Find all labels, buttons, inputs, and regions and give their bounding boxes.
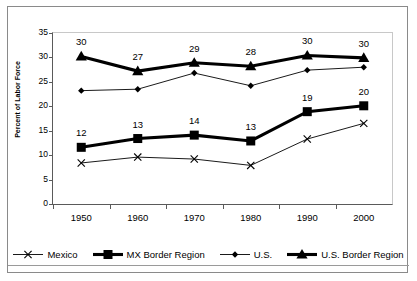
series-mx-border-region <box>77 101 369 152</box>
data-point-marker-square <box>303 107 312 116</box>
legend-label: MX Border Region <box>127 249 205 260</box>
x-tick-label: 1950 <box>61 212 101 223</box>
y-tick-label: 35 <box>28 28 48 37</box>
data-point-marker-diamond <box>304 67 310 73</box>
x-tick-mark <box>53 205 54 209</box>
legend-divider <box>8 265 409 266</box>
y-axis-title: Percent of Labor Force <box>14 45 21 155</box>
data-point-marker-square <box>133 134 142 143</box>
data-point-marker-square <box>77 143 86 152</box>
data-point-marker-triangle <box>76 51 87 61</box>
legend-item-u-s[interactable]: U.S. <box>219 248 272 261</box>
x-tick-mark <box>166 205 167 209</box>
legend-marker-triangle-icon <box>286 248 318 261</box>
x-tick-label: 2000 <box>344 212 384 223</box>
data-label: 12 <box>68 127 94 138</box>
data-point-marker-diamond <box>248 83 254 89</box>
data-label: 14 <box>181 115 207 126</box>
plot-svg <box>53 33 392 204</box>
data-label: 19 <box>294 92 320 103</box>
data-point-marker-diamond <box>78 87 84 93</box>
y-tick-label: 0 <box>28 199 48 208</box>
x-tick-label: 1980 <box>231 212 271 223</box>
data-label: 29 <box>181 43 207 54</box>
x-tick-mark <box>110 205 111 209</box>
legend-label: U.S. Border Region <box>321 249 403 260</box>
series-line <box>81 123 364 165</box>
y-tick-label: 5 <box>28 175 48 184</box>
data-label: 30 <box>68 36 94 47</box>
legend-marker-x-icon <box>12 248 44 261</box>
series-line <box>81 55 364 71</box>
legend-marker-square-icon <box>92 248 124 261</box>
data-point-marker-square <box>103 250 112 259</box>
plot-area <box>52 32 393 205</box>
data-point-marker-diamond <box>135 86 141 92</box>
data-point-marker-square <box>190 131 199 140</box>
series-line <box>81 106 364 148</box>
data-point-marker-diamond <box>232 251 238 257</box>
x-tick-mark <box>279 205 280 209</box>
series-u-s <box>78 64 367 94</box>
x-tick-mark <box>223 205 224 209</box>
legend-item-u-s-border-region[interactable]: U.S. Border Region <box>286 248 403 261</box>
chart-legend: MexicoMX Border RegionU.S.U.S. Border Re… <box>16 243 400 265</box>
data-label: 20 <box>351 86 377 97</box>
data-label: 27 <box>125 51 151 62</box>
legend-item-mx-border-region[interactable]: MX Border Region <box>92 248 205 261</box>
series-mexico <box>78 120 368 169</box>
data-label: 30 <box>294 35 320 46</box>
x-tick-label: 1960 <box>118 212 158 223</box>
y-tick-label: 10 <box>28 150 48 159</box>
data-point-marker-diamond <box>191 70 197 76</box>
x-tick-label: 1970 <box>174 212 214 223</box>
data-label: 13 <box>238 121 264 132</box>
legend-label: Mexico <box>47 249 77 260</box>
y-tick-label: 15 <box>28 126 48 135</box>
series-u-s-border-region <box>76 50 370 75</box>
data-label: 30 <box>351 38 377 49</box>
y-tick-label: 25 <box>28 77 48 86</box>
data-label: 28 <box>238 46 264 57</box>
data-point-marker-square <box>359 101 368 110</box>
data-point-marker-x <box>360 120 367 127</box>
y-tick-label: 30 <box>28 52 48 61</box>
y-tick-label: 20 <box>28 101 48 110</box>
y-axis-tick-labels: 05101520253035 <box>26 0 48 281</box>
x-tick-mark <box>336 205 337 209</box>
legend-label: U.S. <box>254 249 272 260</box>
x-tick-label: 1990 <box>287 212 327 223</box>
chart-figure: Percent of Labor Force 05101520253035 19… <box>0 0 417 281</box>
data-point-marker-diamond <box>361 64 367 70</box>
legend-item-mexico[interactable]: Mexico <box>12 248 77 261</box>
data-point-marker-square <box>246 136 255 145</box>
data-point-marker-x <box>304 135 311 142</box>
legend-marker-diamond-icon <box>219 248 251 261</box>
data-label: 13 <box>125 119 151 130</box>
series-line <box>81 67 364 90</box>
